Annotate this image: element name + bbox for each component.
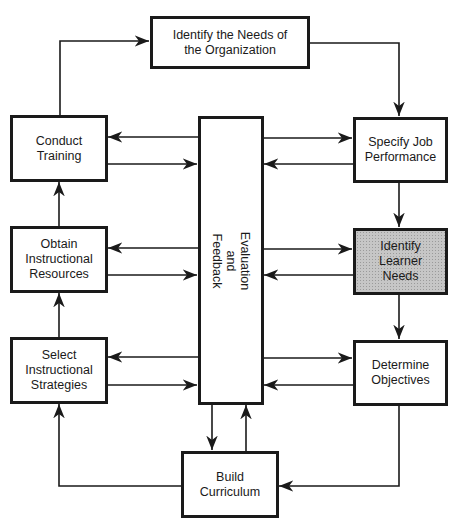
node-identify-learner-needs: Identify Learner Needs xyxy=(353,228,448,295)
node-obtain-instructional-resources: Obtain Instructional Resources xyxy=(10,226,108,293)
node-identify-organization-needs: Identify the Needs of the Organization xyxy=(150,16,310,69)
node-conduct-training: Conduct Training xyxy=(10,115,108,182)
node-specify-job-performance: Specify Job Performance xyxy=(353,117,448,183)
node-select-instructional-strategies: Select Instructional Strategies xyxy=(10,337,108,404)
evaluation-label: Evaluation and Feedback xyxy=(210,201,252,321)
node-evaluation-and-feedback: Evaluation and Feedback xyxy=(198,116,264,405)
node-determine-objectives: Determine Objectives xyxy=(353,340,448,406)
node-build-curriculum: Build Curriculum xyxy=(181,451,279,518)
